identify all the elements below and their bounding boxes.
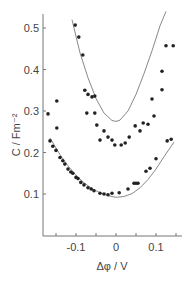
data-point <box>46 112 50 116</box>
x-tick-label: 0.1 <box>148 241 163 253</box>
data-point <box>164 44 168 48</box>
capacitance-chart: 0.10.20.30.40.5-0.100.1 C / Fm⁻² Δφ / V <box>0 0 196 282</box>
data-point <box>71 172 75 176</box>
data-point <box>54 149 58 153</box>
data-point <box>63 162 67 166</box>
x-axis-label: Δφ / V <box>97 260 129 272</box>
data-point <box>141 121 145 125</box>
data-point <box>92 189 96 193</box>
data-point <box>61 159 65 163</box>
data-point <box>95 123 99 127</box>
data-point <box>123 141 127 145</box>
data-point <box>127 135 131 139</box>
y-tick-label: 0.5 <box>24 22 39 34</box>
data-point <box>79 181 83 185</box>
data-point <box>86 93 90 97</box>
x-tick-label: -0.1 <box>67 241 86 253</box>
data-point <box>82 183 86 187</box>
data-point <box>138 129 142 133</box>
data-point <box>133 124 137 128</box>
data-point <box>83 89 87 93</box>
data-point <box>110 138 114 142</box>
data-point <box>48 139 52 143</box>
data-point <box>169 137 173 141</box>
y-tick-label: 0.3 <box>24 105 39 117</box>
data-point <box>81 53 85 57</box>
data-point <box>148 167 152 171</box>
data-point <box>126 187 130 191</box>
data-point <box>93 94 97 98</box>
data-point <box>160 88 164 92</box>
data-point <box>58 156 62 160</box>
data-point <box>146 123 150 127</box>
data-point <box>55 126 59 130</box>
data-point <box>119 143 123 147</box>
data-point <box>152 114 156 118</box>
data-point <box>150 97 154 101</box>
data-point <box>85 111 89 115</box>
data-point <box>117 191 121 195</box>
data-point <box>154 157 158 161</box>
data-point <box>113 143 117 147</box>
data-point <box>165 139 169 143</box>
data-point <box>102 192 106 196</box>
x-tick-label: 0 <box>113 241 119 253</box>
data-point <box>136 181 140 185</box>
data-point <box>110 191 114 195</box>
data-points <box>46 23 175 196</box>
data-point <box>144 169 148 173</box>
data-point <box>106 193 110 197</box>
data-point <box>55 99 59 103</box>
axes: 0.10.20.30.40.5-0.100.1 <box>24 14 182 253</box>
y-tick-label: 0.2 <box>24 147 39 159</box>
data-point <box>98 191 102 195</box>
data-point <box>98 138 102 142</box>
y-tick-label: 0.1 <box>24 188 39 200</box>
data-point <box>77 35 81 39</box>
data-point <box>86 186 90 190</box>
data-point <box>106 135 110 139</box>
data-point <box>93 111 97 115</box>
data-point <box>160 69 164 73</box>
data-point <box>76 177 80 181</box>
fit-curve <box>72 11 166 121</box>
data-point <box>66 167 70 171</box>
data-point <box>102 129 106 133</box>
data-point <box>171 44 175 48</box>
y-axis-label: C / Fm⁻² <box>10 113 22 156</box>
data-point <box>51 145 55 149</box>
y-tick-label: 0.4 <box>24 64 39 76</box>
data-point <box>73 23 77 27</box>
